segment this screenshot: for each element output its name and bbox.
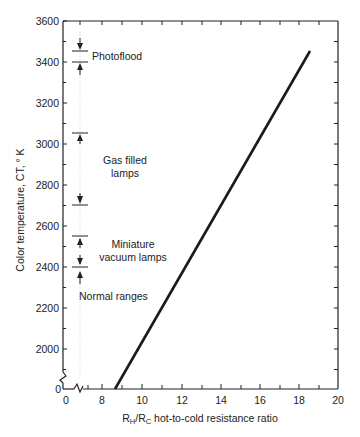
x-tick-20: 20 (332, 394, 344, 406)
x-tick-16: 16 (254, 394, 266, 406)
annotation-labels: Photoflood Gas filled lamps Miniature va… (79, 50, 167, 302)
y-tick-3200: 3200 (36, 97, 60, 109)
x-tick-8: 8 (99, 394, 105, 406)
y-tick-3000: 3000 (36, 138, 60, 150)
label-gas-filled-1: Gas filled (103, 154, 147, 166)
y-tick-3400: 3400 (36, 56, 60, 68)
y-tick-0: 0 (55, 383, 61, 395)
x-ticks (88, 384, 319, 389)
x-tick-0: 0 (63, 394, 69, 406)
y-axis-title: Color temperature, CT, ° K (14, 148, 26, 271)
y-tick-3600: 3600 (36, 15, 60, 27)
y-tick-2400: 2400 (36, 261, 60, 273)
x-axis-title: RH/RC hot-to-cold resistance ratio (122, 412, 278, 426)
y-tick-2800: 2800 (36, 179, 60, 191)
y-tick-2600: 2600 (36, 220, 60, 232)
x-tick-14: 14 (215, 394, 227, 406)
x-tick-10: 10 (136, 394, 148, 406)
y-tick-2000: 2000 (36, 343, 60, 355)
y-tick-2200: 2200 (36, 302, 60, 314)
x-tick-12: 12 (176, 394, 188, 406)
label-miniature-2: vacuum lamps (99, 251, 167, 263)
data-line (115, 51, 310, 389)
label-normal-ranges: Normal ranges (79, 290, 148, 302)
label-miniature-1: Miniature (111, 238, 154, 250)
x-tick-labels: 0 8 10 12 14 16 18 20 (63, 394, 344, 406)
x-tick-18: 18 (293, 394, 305, 406)
chart: 3600 3400 3200 3000 2800 2600 2400 2200 … (0, 0, 360, 437)
annotation-markers (72, 32, 88, 380)
label-gas-filled-2: lamps (111, 167, 139, 179)
label-photoflood: Photoflood (92, 50, 142, 62)
y-tick-labels: 3600 3400 3200 3000 2800 2600 2400 2200 … (36, 15, 62, 395)
